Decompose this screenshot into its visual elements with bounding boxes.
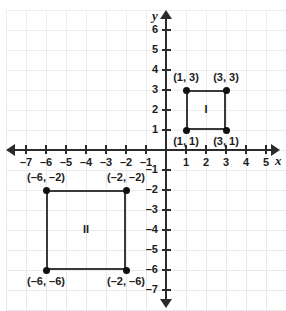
y-axis-tick xyxy=(162,189,171,191)
vertex-coordinate-label: (–6, –2) xyxy=(16,171,76,183)
x-axis-tick-label: 5 xyxy=(254,156,278,168)
y-axis-tick xyxy=(162,269,171,271)
vertex-point xyxy=(183,87,190,94)
y-axis-tick-label: –6 xyxy=(134,263,158,275)
vertex-point xyxy=(43,267,50,274)
y-axis-tick-label: –4 xyxy=(134,223,158,235)
x-axis-tick xyxy=(265,145,267,154)
y-axis-tick-label: 4 xyxy=(134,63,158,75)
y-axis-arrow-up-icon xyxy=(160,10,172,19)
x-axis-tick xyxy=(65,145,67,154)
y-axis-tick-label: 5 xyxy=(134,43,158,55)
y-axis-tick xyxy=(162,229,171,231)
y-axis-tick xyxy=(162,169,171,171)
x-axis-tick xyxy=(25,145,27,154)
y-axis-label: y xyxy=(152,8,158,24)
y-axis-tick xyxy=(162,129,171,131)
y-axis-line xyxy=(165,14,167,306)
y-axis-tick xyxy=(162,29,171,31)
x-axis-tick xyxy=(145,145,147,154)
y-axis-tick-label: 6 xyxy=(134,23,158,35)
vertex-point xyxy=(43,187,50,194)
vertex-coordinate-label: (–2, –6) xyxy=(96,275,156,287)
y-axis-tick xyxy=(162,249,171,251)
vertex-point xyxy=(123,187,130,194)
y-axis-tick xyxy=(162,49,171,51)
y-axis-tick-label: 3 xyxy=(134,83,158,95)
y-axis-arrow-down-icon xyxy=(160,299,172,308)
y-axis-tick xyxy=(162,289,171,291)
y-axis-tick-label: –5 xyxy=(134,243,158,255)
x-axis-tick xyxy=(85,145,87,154)
x-axis-line xyxy=(10,149,276,151)
vertex-coordinate-label: (–6, –6) xyxy=(16,275,76,287)
x-axis-tick xyxy=(45,145,47,154)
y-axis-tick xyxy=(162,89,171,91)
y-axis-tick xyxy=(162,109,171,111)
shape-name-label: I xyxy=(191,103,221,115)
vertex-coordinate-label: (–2, –2) xyxy=(96,171,156,183)
coordinate-plane-figure: x y –7–6–5–4–3–2–112345654321–1–2–3–4–5–… xyxy=(0,0,286,311)
vertex-point xyxy=(183,127,190,134)
x-axis-arrow-left-icon xyxy=(6,144,15,156)
shape-name-label: II xyxy=(71,223,101,235)
vertex-coordinate-label: (3, 3) xyxy=(196,71,256,83)
x-axis-tick xyxy=(105,145,107,154)
y-axis-tick xyxy=(162,209,171,211)
vertex-point xyxy=(223,87,230,94)
y-axis-tick-label: 2 xyxy=(134,103,158,115)
vertex-point xyxy=(223,127,230,134)
y-axis-tick-label: –3 xyxy=(134,203,158,215)
vertex-point xyxy=(123,267,130,274)
y-axis-tick-label: –2 xyxy=(134,183,158,195)
vertex-coordinate-label: (3, 1) xyxy=(196,135,256,147)
y-axis-tick-label: 1 xyxy=(134,123,158,135)
x-axis-tick xyxy=(125,145,127,154)
